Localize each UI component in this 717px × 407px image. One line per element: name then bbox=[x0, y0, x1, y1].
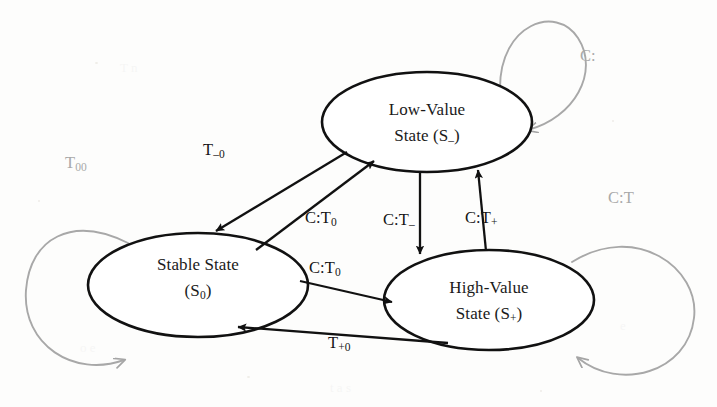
label-base: C:T bbox=[608, 188, 634, 207]
high-value-state-ellipse[interactable] bbox=[384, 250, 594, 350]
label-sub: +0 bbox=[338, 341, 350, 353]
label-sub: + bbox=[491, 216, 498, 228]
diagram-canvas: T n T c o e t a s e bbox=[0, 0, 717, 407]
self-loop-high-value-label: C:T bbox=[608, 188, 634, 208]
transition-low-to-stable-label: T–0 bbox=[203, 140, 225, 160]
label-sub: – bbox=[409, 218, 415, 230]
scan-speck bbox=[38, 200, 40, 202]
label-base: C:T bbox=[305, 208, 331, 227]
transition-low-to-high-label: C:T– bbox=[383, 210, 415, 230]
svg-text:o e: o e bbox=[80, 340, 96, 355]
svg-text:t a s: t a s bbox=[330, 380, 351, 395]
scan-speck bbox=[95, 62, 98, 64]
low-value-state-ellipse[interactable] bbox=[322, 72, 532, 172]
label-sub: 0 bbox=[335, 266, 341, 278]
label-sub: 0 bbox=[331, 216, 337, 228]
transition-high-to-low-label: C:T+ bbox=[465, 208, 497, 228]
scan-speck bbox=[247, 376, 250, 378]
label-sub: 00 bbox=[75, 161, 87, 173]
self-loop-low-value-label: C: bbox=[580, 46, 596, 66]
stable-state-ellipse[interactable] bbox=[88, 233, 308, 337]
label-sub: –0 bbox=[213, 148, 225, 160]
label-base: T bbox=[328, 333, 338, 352]
transition-stable-to-low-label: C:T0 bbox=[305, 208, 337, 228]
self-loop-stable-label: T00 bbox=[65, 153, 87, 173]
label-base: C:T bbox=[383, 210, 409, 229]
label-base: C:T bbox=[465, 208, 491, 227]
transition-stable-to-high-label: C:T0 bbox=[309, 258, 341, 278]
label-base: C:T bbox=[309, 258, 335, 277]
svg-text:T n: T n bbox=[120, 60, 138, 75]
svg-text:e: e bbox=[620, 318, 626, 333]
scan-speck bbox=[540, 390, 542, 392]
scan-speck bbox=[612, 120, 614, 122]
label-base: T bbox=[65, 153, 75, 172]
label-base: T bbox=[203, 140, 213, 159]
transition-high-to-stable-label: T+0 bbox=[328, 333, 350, 353]
label-base: C: bbox=[580, 46, 596, 65]
